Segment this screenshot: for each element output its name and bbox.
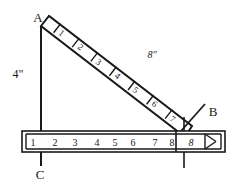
ruler-tick-label-3: 3	[73, 137, 78, 148]
dimension-label-hypotenuse: 8"	[147, 49, 157, 60]
vertex-label-a: A	[33, 10, 43, 25]
ruler-tick-label-8: 8	[170, 137, 175, 148]
geometry-diagram: 1 2 3 4 5 6 7 1 2 3 4 5 6 7 8 8 A B C 4"…	[0, 0, 237, 187]
diagram-canvas: 1 2 3 4 5 6 7 1 2 3 4 5 6 7 8 8 A B C 4"…	[0, 0, 237, 187]
ruler-tick-label-6: 6	[131, 137, 136, 148]
ruler-tick-label-2: 2	[53, 137, 58, 148]
angle-cell-label: 8	[189, 137, 194, 148]
ruler-tick-label-1: 1	[31, 137, 36, 148]
ruler-tick-label-4: 4	[95, 137, 100, 148]
ruler-tick-label-5: 5	[113, 137, 118, 148]
dimension-label-vertical: 4"	[13, 67, 24, 81]
vertex-label-b: B	[209, 104, 218, 119]
ruler-tick-labels: 1 2 3 4 5 6 7 8 8	[31, 137, 194, 148]
ruler-tick-label-7: 7	[153, 137, 158, 148]
vertex-label-c: C	[36, 167, 45, 182]
